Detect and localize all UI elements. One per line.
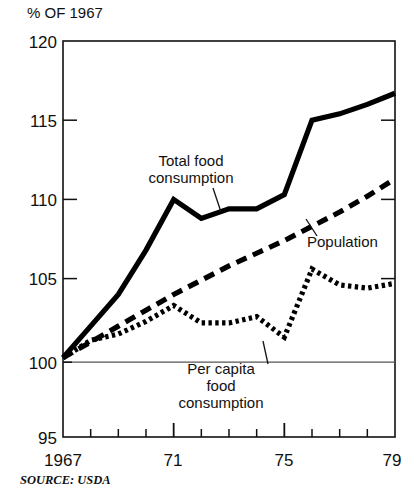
data-series-layer	[63, 93, 395, 358]
x-tick-marks	[91, 423, 368, 437]
y-tick-label-115: 115	[30, 112, 57, 131]
annotation-total-food-leader	[213, 188, 221, 212]
y-tick-label-105: 105	[29, 270, 57, 289]
x-tick-label-1967: 1967	[44, 451, 82, 470]
y-axis-title: % OF 1967	[27, 4, 103, 21]
annotation-percap-line1: Per capita	[187, 360, 255, 377]
series-population	[63, 179, 395, 358]
annotation-percap-leader	[263, 341, 268, 364]
y-tick-label-95: 95	[38, 429, 57, 448]
annotation-total-food-line1: Total food	[158, 152, 223, 169]
x-tick-label-79: 79	[383, 451, 402, 470]
source-note: SOURCE: USDA	[20, 473, 111, 487]
annotation-population-label: Population	[307, 233, 378, 250]
annotation-percap-line3: consumption	[178, 394, 263, 411]
x-tick-label-75: 75	[275, 451, 294, 470]
annotation-total-food-consumption: Total food consumption	[148, 152, 233, 212]
annotation-percap-line2: food	[206, 377, 235, 394]
annotation-population: Population	[306, 219, 378, 250]
series-per-capita-food-consumption	[63, 269, 395, 358]
x-tick-label-71: 71	[164, 451, 183, 470]
y-tick-label-120: 120	[29, 33, 57, 52]
annotation-total-food-line2: consumption	[148, 169, 233, 186]
y-tick-label-100: 100	[29, 354, 57, 373]
annotation-per-capita-food-consumption: Per capita food consumption	[178, 341, 268, 411]
food-consumption-index-chart: % OF 1967 120 115 110 105 100 95 1967 71…	[0, 0, 418, 497]
y-tick-label-110: 110	[30, 191, 57, 210]
series-total-food-consumption	[63, 93, 395, 358]
